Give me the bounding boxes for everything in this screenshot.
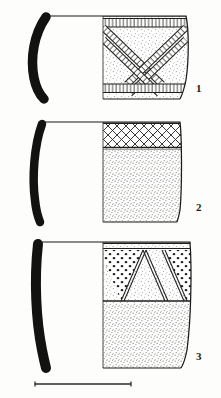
vessel-3-lower-body-stipple [100,303,196,371]
vessel-2-exterior-view [100,122,188,224]
plate-canvas: 1 2 [0,0,221,398]
vessel-2-figure-number: 2 [196,201,202,213]
vessel-2-lattice-band [100,123,188,148]
vessel-2-lower-body-stipple [100,150,188,224]
vessel-1-figure-number: 1 [196,82,202,94]
vessel-1-exterior-view [100,16,192,99]
vessel-1-rim-ladder-band [100,19,192,28]
vessel-2-decoration [100,123,188,224]
pottery-illustration-plate: 1 2 [0,0,221,398]
vessel-3-figure-number: 3 [196,350,202,362]
vessel-1-lower-ladder-band [100,84,192,93]
